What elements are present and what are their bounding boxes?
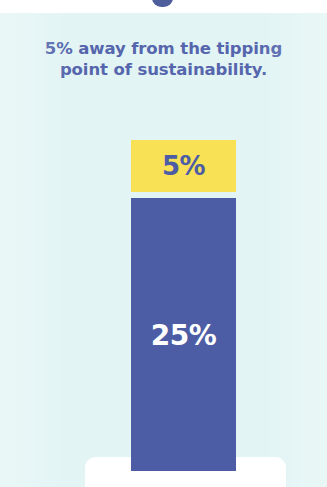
bar-segment-achieved: 25% <box>131 198 236 471</box>
caption-line-2: point of sustainability. <box>18 59 309 80</box>
caption-line-1: 5% away from the tipping <box>18 38 309 59</box>
clipped-glyph-fragment <box>152 0 173 7</box>
clipped-headline-strip <box>0 0 327 13</box>
chart-caption: 5% away from the tipping point of sustai… <box>18 38 309 80</box>
bar-segment-remaining: 5% <box>131 140 236 192</box>
stacked-bar-chart: 5% 25% <box>131 140 236 471</box>
infographic-canvas: 5% away from the tipping point of sustai… <box>0 0 327 487</box>
